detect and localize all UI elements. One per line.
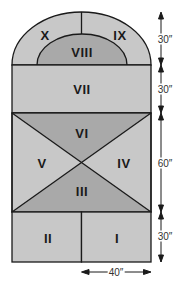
label-X: X <box>40 28 49 43</box>
label-II: II <box>44 231 52 246</box>
vertical-dimension-arrows <box>159 12 164 262</box>
label-IV: IV <box>117 156 130 171</box>
window-diagram: X IX VIII VII VI V IV III II I 30″ 30″ 6… <box>0 0 183 286</box>
dim-base-height: 30″ <box>157 231 174 242</box>
label-VI: VI <box>75 126 88 141</box>
dim-band-height: 30″ <box>157 84 174 95</box>
label-VIII: VIII <box>71 45 93 60</box>
dim-arch-height: 30″ <box>157 34 174 45</box>
diagram-canvas <box>0 0 183 286</box>
dim-half-width: 40″ <box>108 267 125 278</box>
dim-cross-height: 60″ <box>157 158 174 169</box>
label-I: I <box>115 231 119 246</box>
label-III: III <box>76 184 88 199</box>
label-IX: IX <box>113 28 126 43</box>
label-VII: VII <box>73 82 90 97</box>
label-V: V <box>37 156 46 171</box>
